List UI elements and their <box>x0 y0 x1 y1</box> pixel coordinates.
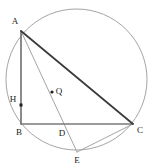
segment-AC <box>21 31 133 124</box>
point-label-c: C <box>137 125 143 135</box>
point-marker-h <box>20 104 23 107</box>
circumscribed-circle <box>6 9 147 150</box>
segment-AE <box>21 31 77 152</box>
point-markers <box>20 90 54 106</box>
point-label-b: B <box>16 127 22 137</box>
segment-EC <box>77 124 133 152</box>
point-label-a: A <box>12 16 19 26</box>
point-label-h: H <box>10 94 17 104</box>
point-marker-q <box>50 90 53 93</box>
point-label-q: Q <box>56 86 63 96</box>
geometry-figure: ABCDEHQ <box>0 0 150 167</box>
geometry-canvas: ABCDEHQ <box>0 0 150 167</box>
point-label-d: D <box>59 128 66 138</box>
point-label-e: E <box>74 155 80 165</box>
